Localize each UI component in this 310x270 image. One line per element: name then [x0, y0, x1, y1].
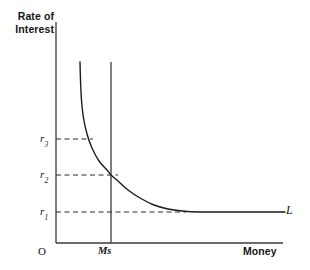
dashed-guide-lines [56, 139, 186, 212]
liquidity-preference-chart: Rate of Interest Money O Ms L r3 r2 r1 [0, 0, 310, 270]
plot-area [0, 0, 310, 270]
